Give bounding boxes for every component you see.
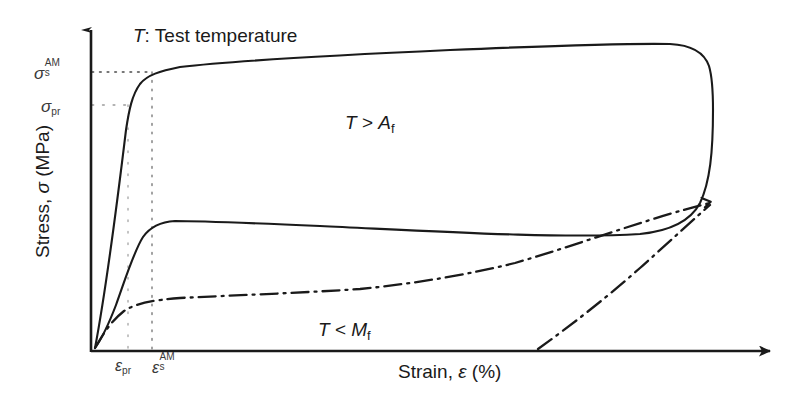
annotation-martensite-target-sub: f xyxy=(367,328,371,343)
curve-detwinning-loading xyxy=(95,203,710,348)
y-tick-label-sigma-pr: σpr xyxy=(41,98,60,117)
chart-canvas xyxy=(0,0,800,403)
y-tick-sigma-s-am-sub: s xyxy=(45,68,50,78)
y-axis-label-units: (MPa) xyxy=(32,125,53,182)
annotation-austenite-target: A xyxy=(378,112,391,133)
temperature-legend-symbol: T xyxy=(133,25,145,46)
annotation-austenite-relation: > xyxy=(357,112,379,133)
annotation-martensite-regime: T < Mf xyxy=(318,320,371,343)
curve-detwinning-unloading xyxy=(538,205,710,349)
y-axis-label-prefix: Stress, xyxy=(32,193,53,257)
curve-superelastic-unloading xyxy=(95,110,713,348)
x-tick-label-epsilon-s-am: ε AM s xyxy=(152,358,159,376)
x-axis-label-units: (%) xyxy=(467,361,502,382)
y-axis-label-wrapper: Stress, σ (MPa) xyxy=(10,125,40,305)
x-tick-epsilon-s-am-sub: s xyxy=(160,362,165,372)
x-tick-epsilon-pr-sub: pr xyxy=(122,365,131,376)
x-tick-epsilon-s-am-symbol: ε xyxy=(152,359,159,376)
x-tick-epsilon-pr-symbol: ε xyxy=(115,357,122,374)
y-tick-label-sigma-s-am: σ AM s xyxy=(34,64,44,82)
y-tick-sigma-pr-sub: pr xyxy=(51,106,60,117)
axes xyxy=(91,30,770,352)
x-axis-label: Strain, ε (%) xyxy=(398,362,501,381)
annotation-martensite-target: M xyxy=(351,319,367,340)
y-tick-sigma-s-am-symbol: σ xyxy=(34,64,44,83)
annotation-austenite-target-sub: f xyxy=(391,121,395,136)
temperature-legend-text: : Test temperature xyxy=(145,25,298,46)
y-tick-sigma-pr-symbol: σ xyxy=(41,97,51,116)
x-axis-label-symbol: ε xyxy=(458,361,466,382)
curve-superelastic-loading xyxy=(95,44,713,348)
x-axis-label-prefix: Strain, xyxy=(398,361,458,382)
y-axis-label-symbol: σ xyxy=(32,182,53,193)
temperature-legend: T: Test temperature xyxy=(133,26,297,45)
annotation-martensite-symbol: T xyxy=(318,319,330,340)
annotation-austenite-regime: T > Af xyxy=(345,113,395,136)
y-axis-label: Stress, σ (MPa) xyxy=(32,125,54,258)
x-tick-label-epsilon-pr: εpr xyxy=(115,358,131,376)
annotation-austenite-symbol: T xyxy=(345,112,357,133)
annotation-martensite-relation: < xyxy=(330,319,352,340)
stress-strain-figure: T: Test temperature T > Af T < Mf σ AM s… xyxy=(0,0,800,403)
